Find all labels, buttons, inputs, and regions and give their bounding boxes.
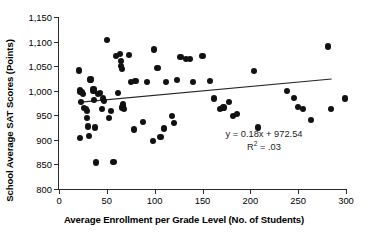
y-axis-tick-label: 1,100: [29, 36, 52, 47]
data-point: [161, 125, 167, 131]
data-point: [86, 133, 92, 139]
data-point: [234, 111, 240, 117]
x-axis-title: Average Enrollment per Grade Level (No. …: [0, 214, 368, 225]
data-point: [131, 126, 137, 132]
x-axis-tick: [250, 189, 251, 194]
x-axis-tick-label: 0: [56, 195, 61, 206]
data-point: [220, 104, 226, 110]
plot-area: 8008509009501,0001,0501,1001,15005010015…: [58, 17, 346, 190]
x-axis-tick: [107, 189, 108, 194]
data-point: [199, 53, 205, 59]
data-point: [93, 159, 99, 165]
x-axis-tick: [203, 189, 204, 194]
x-axis-tick-label: 250: [290, 195, 306, 206]
data-point: [76, 67, 82, 73]
x-axis-tick: [346, 189, 347, 194]
x-axis-tick-label: 50: [102, 195, 112, 206]
data-point: [87, 76, 93, 82]
data-point: [151, 46, 157, 52]
data-point: [85, 123, 91, 129]
y-axis-tick: [54, 17, 59, 18]
y-axis-tick-label: 800: [36, 184, 52, 195]
data-point: [174, 77, 180, 83]
r-squared-line: R2 = .03: [190, 141, 338, 154]
y-axis-title: School Average SAT Scores (Points): [0, 0, 18, 241]
r-squared-value: = .03: [257, 142, 281, 152]
y-axis-tick-label: 900: [36, 134, 52, 145]
data-point: [211, 95, 217, 101]
data-point: [84, 108, 90, 114]
y-axis-tick-label: 850: [36, 159, 52, 170]
scatter-chart-figure: School Average SAT Scores (Points) 80085…: [0, 0, 368, 241]
data-point: [150, 138, 156, 144]
x-axis-tick: [155, 189, 156, 194]
data-point: [157, 134, 163, 140]
data-point: [104, 37, 110, 43]
regression-annotation: y = 0.18x + 972.54 R2 = .03: [190, 128, 338, 155]
data-point: [325, 43, 331, 49]
y-axis-tick: [54, 66, 59, 67]
data-point: [342, 95, 348, 101]
y-axis-tick: [54, 42, 59, 43]
data-point: [284, 88, 290, 94]
data-point: [154, 65, 160, 71]
y-axis-tick-label: 1,050: [29, 61, 52, 72]
data-point: [110, 159, 116, 165]
y-axis-tick-label: 950: [36, 110, 52, 121]
regression-equation: y = 0.18x + 972.54: [190, 128, 338, 141]
data-point: [140, 119, 146, 125]
y-axis-tick: [54, 115, 59, 116]
x-axis-tick-label: 200: [243, 195, 259, 206]
y-axis-tick: [54, 164, 59, 165]
y-axis-tick-label: 1,150: [29, 12, 52, 23]
data-point: [308, 117, 314, 123]
x-axis-tick-label: 300: [338, 195, 354, 206]
data-point: [126, 52, 132, 58]
x-axis-tick-label: 150: [195, 195, 211, 206]
x-axis-tick: [59, 189, 60, 194]
r-squared-symbol: R: [247, 142, 254, 152]
y-axis-tick: [54, 140, 59, 141]
y-axis-tick-label: 1,000: [29, 85, 52, 96]
x-axis-tick-label: 100: [147, 195, 163, 206]
x-axis-tick: [298, 189, 299, 194]
data-point: [171, 120, 177, 126]
y-axis-tick: [54, 91, 59, 92]
